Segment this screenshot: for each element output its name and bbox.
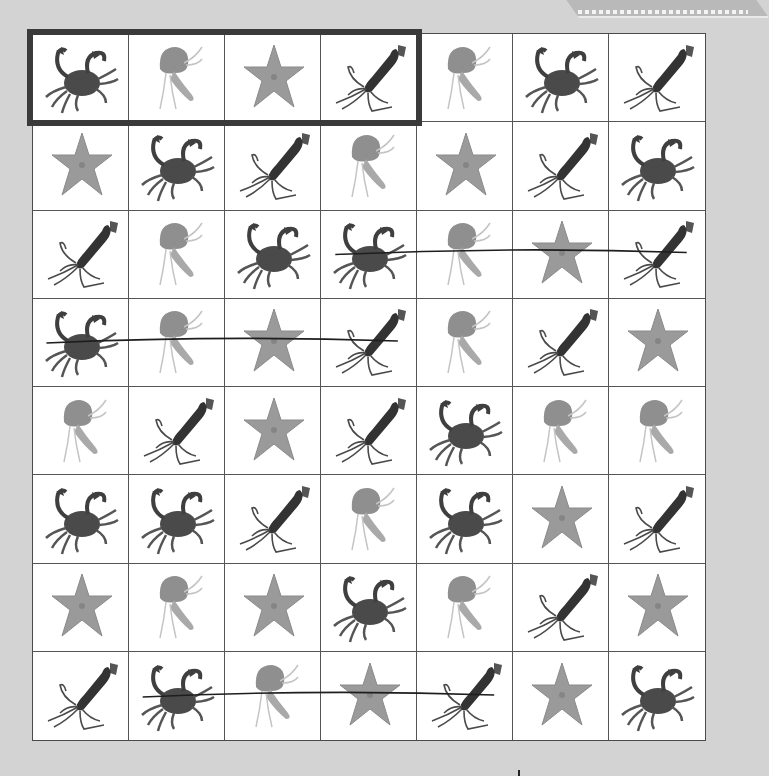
grid-cell-crab[interactable] xyxy=(609,122,705,210)
starfish-icon xyxy=(232,568,314,646)
grid-cell-squid[interactable] xyxy=(321,34,417,122)
grid-cell-crab[interactable] xyxy=(417,475,513,563)
grid-cell-squid[interactable] xyxy=(417,652,513,740)
grid-cell-jellyfish[interactable] xyxy=(417,564,513,652)
grid-cell-squid[interactable] xyxy=(513,564,609,652)
pen-mark xyxy=(518,770,520,776)
squid-icon xyxy=(616,39,698,117)
grid-cell-crab[interactable] xyxy=(321,564,417,652)
squid-icon xyxy=(520,568,602,646)
starfish-icon xyxy=(328,657,410,735)
grid-cell-squid[interactable] xyxy=(609,211,705,299)
grid-cell-jellyfish[interactable] xyxy=(321,475,417,563)
grid-cell-starfish[interactable] xyxy=(609,299,705,387)
jellyfish-icon xyxy=(328,480,410,558)
crab-icon xyxy=(40,39,122,117)
jellyfish-icon xyxy=(424,568,506,646)
corner-banner-dots xyxy=(578,10,748,14)
grid-cell-starfish[interactable] xyxy=(513,652,609,740)
grid-cell-starfish[interactable] xyxy=(321,652,417,740)
grid-cell-jellyfish[interactable] xyxy=(129,299,225,387)
grid-cell-crab[interactable] xyxy=(417,387,513,475)
crab-icon xyxy=(424,480,506,558)
grid-cell-squid[interactable] xyxy=(609,475,705,563)
jellyfish-icon xyxy=(232,657,314,735)
grid-cell-squid[interactable] xyxy=(225,122,321,210)
grid-cell-crab[interactable] xyxy=(33,299,129,387)
starfish-icon xyxy=(40,127,122,205)
grid-cell-squid[interactable] xyxy=(609,34,705,122)
squid-icon xyxy=(328,392,410,470)
puzzle-grid xyxy=(32,33,706,741)
grid-cell-jellyfish[interactable] xyxy=(129,564,225,652)
grid-cell-crab[interactable] xyxy=(33,475,129,563)
grid-cell-jellyfish[interactable] xyxy=(417,211,513,299)
jellyfish-icon xyxy=(40,392,122,470)
grid-cell-crab[interactable] xyxy=(513,34,609,122)
grid-cell-starfish[interactable] xyxy=(33,122,129,210)
crab-icon xyxy=(328,568,410,646)
jellyfish-icon xyxy=(136,215,218,293)
crab-icon xyxy=(616,657,698,735)
grid-cell-jellyfish[interactable] xyxy=(225,652,321,740)
jellyfish-icon xyxy=(520,392,602,470)
grid-cell-jellyfish[interactable] xyxy=(129,211,225,299)
crab-icon xyxy=(40,480,122,558)
starfish-icon xyxy=(520,480,602,558)
squid-icon xyxy=(232,480,314,558)
grid-cell-squid[interactable] xyxy=(33,211,129,299)
corner-banner xyxy=(565,0,769,18)
grid-cell-jellyfish[interactable] xyxy=(417,34,513,122)
starfish-icon xyxy=(520,657,602,735)
grid-cell-starfish[interactable] xyxy=(225,299,321,387)
grid-cell-crab[interactable] xyxy=(225,211,321,299)
grid-cell-starfish[interactable] xyxy=(33,564,129,652)
jellyfish-icon xyxy=(136,303,218,381)
grid-cell-starfish[interactable] xyxy=(225,34,321,122)
crab-icon xyxy=(328,215,410,293)
crab-icon xyxy=(136,127,218,205)
grid-cell-jellyfish[interactable] xyxy=(513,387,609,475)
starfish-icon xyxy=(40,568,122,646)
jellyfish-icon xyxy=(328,127,410,205)
grid-cell-jellyfish[interactable] xyxy=(129,34,225,122)
grid-cell-crab[interactable] xyxy=(129,475,225,563)
jellyfish-icon xyxy=(424,39,506,117)
squid-icon xyxy=(328,39,410,117)
crab-icon xyxy=(136,657,218,735)
grid-cell-starfish[interactable] xyxy=(513,211,609,299)
grid-cell-crab[interactable] xyxy=(129,652,225,740)
grid-cell-squid[interactable] xyxy=(513,122,609,210)
squid-icon xyxy=(520,303,602,381)
grid-cell-starfish[interactable] xyxy=(225,564,321,652)
squid-icon xyxy=(232,127,314,205)
starfish-icon xyxy=(232,392,314,470)
grid-cell-squid[interactable] xyxy=(33,652,129,740)
grid-cell-jellyfish[interactable] xyxy=(33,387,129,475)
crab-icon xyxy=(232,215,314,293)
grid-cell-crab[interactable] xyxy=(321,211,417,299)
grid-cell-jellyfish[interactable] xyxy=(321,122,417,210)
grid-cell-squid[interactable] xyxy=(513,299,609,387)
jellyfish-icon xyxy=(136,568,218,646)
crab-icon xyxy=(520,39,602,117)
jellyfish-icon xyxy=(616,392,698,470)
grid-cell-squid[interactable] xyxy=(321,299,417,387)
grid-cell-crab[interactable] xyxy=(33,34,129,122)
grid-cell-starfish[interactable] xyxy=(417,122,513,210)
grid-cell-jellyfish[interactable] xyxy=(609,387,705,475)
starfish-icon xyxy=(520,215,602,293)
grid-cell-crab[interactable] xyxy=(129,122,225,210)
grid-cell-squid[interactable] xyxy=(321,387,417,475)
grid-cell-starfish[interactable] xyxy=(513,475,609,563)
crab-icon xyxy=(424,392,506,470)
jellyfish-icon xyxy=(424,215,506,293)
grid-cell-crab[interactable] xyxy=(609,652,705,740)
crab-icon xyxy=(616,127,698,205)
grid-cell-starfish[interactable] xyxy=(609,564,705,652)
squid-icon xyxy=(520,127,602,205)
grid-cell-squid[interactable] xyxy=(225,475,321,563)
grid-cell-squid[interactable] xyxy=(129,387,225,475)
grid-cell-starfish[interactable] xyxy=(225,387,321,475)
grid-cell-jellyfish[interactable] xyxy=(417,299,513,387)
